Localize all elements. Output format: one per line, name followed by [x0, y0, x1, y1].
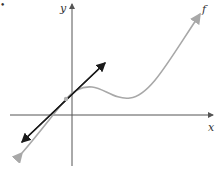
- tangent-point: [64, 97, 68, 101]
- function-tangent-diagram: • x y f: [0, 0, 217, 173]
- tangent-line-forward: [22, 63, 105, 142]
- x-axis-label: x: [208, 121, 215, 134]
- curve-label: f: [201, 3, 208, 16]
- y-axis-label: y: [59, 2, 67, 15]
- curve-f: [22, 14, 200, 153]
- figure-marker: •: [0, 0, 5, 10]
